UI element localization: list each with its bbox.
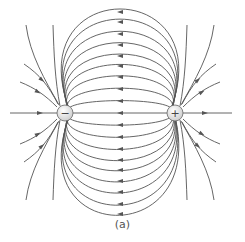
minus-sign: − (60, 107, 69, 120)
field-line (26, 25, 59, 105)
field-line (66, 109, 175, 161)
field-line (62, 19, 178, 106)
arrow-icon (117, 20, 123, 24)
arrow-icon (117, 147, 123, 151)
field-line (61, 9, 179, 106)
arrow-icon (117, 123, 123, 127)
field-line (180, 25, 187, 106)
negative-charge: − (57, 105, 73, 121)
field-line (181, 121, 214, 200)
field-line (24, 64, 58, 104)
field-line (20, 82, 57, 107)
arrow-icon (117, 43, 123, 47)
field-line (182, 64, 216, 104)
field-line (64, 43, 176, 107)
arrow-icon (117, 179, 123, 183)
field-line (24, 122, 58, 162)
field-line (66, 110, 173, 149)
field-line (67, 88, 173, 111)
positive-charge: + (167, 105, 183, 121)
arrow-icon (117, 54, 123, 58)
arrow-icon (117, 158, 123, 162)
arrow-icon (117, 87, 123, 91)
plus-sign: + (170, 107, 179, 120)
dipole-field-diagram: −+ (0, 0, 245, 242)
arrow-icon (117, 32, 123, 36)
field-line (182, 122, 216, 162)
arrow-icon (202, 111, 208, 115)
field-line (66, 64, 175, 109)
field-line (65, 108, 175, 171)
field-lines (10, 9, 232, 216)
field-line (26, 121, 59, 200)
figure-caption: (a) (0, 218, 245, 231)
arrow-icon (117, 10, 123, 14)
arrow-icon (37, 111, 43, 115)
field-line (20, 119, 57, 144)
field-line (65, 54, 175, 108)
field-line (181, 25, 214, 105)
arrow-icon (117, 99, 123, 103)
arrow-icon (117, 135, 123, 139)
field-line (183, 119, 220, 144)
field-line (183, 82, 220, 107)
field-line (180, 120, 187, 200)
arrow-icon (117, 111, 123, 115)
field-line (53, 120, 60, 200)
field-line (53, 25, 60, 106)
arrow-icon (117, 168, 123, 172)
field-line (68, 101, 173, 112)
